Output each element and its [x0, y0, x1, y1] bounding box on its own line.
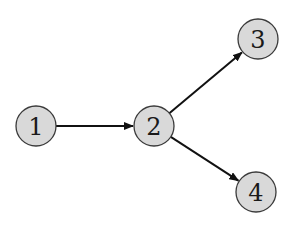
edge-2-to-4 — [171, 137, 239, 181]
node-3: 3 — [238, 19, 278, 59]
node-4: 4 — [236, 172, 276, 212]
node-2-label: 2 — [146, 113, 161, 141]
node-2: 2 — [134, 106, 174, 146]
node-1: 1 — [16, 106, 56, 146]
edge-2-to-3 — [169, 52, 242, 113]
node-1-label: 1 — [28, 113, 43, 141]
graph-diagram: 1 2 3 4 — [0, 0, 296, 226]
node-4-label: 4 — [248, 179, 263, 207]
nodes-layer: 1 2 3 4 — [16, 19, 278, 212]
node-3-label: 3 — [250, 26, 265, 54]
